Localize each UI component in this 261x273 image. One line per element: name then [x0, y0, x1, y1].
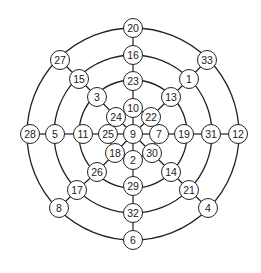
node-33: 33 [197, 50, 217, 70]
circular-graph-diagram: 2016231092293262851125719311227153243311… [0, 0, 261, 273]
node-23: 23 [123, 71, 143, 91]
node-14: 14 [161, 162, 181, 182]
node-13: 13 [161, 87, 181, 107]
node-25: 25 [98, 124, 118, 144]
node-20: 20 [123, 18, 143, 38]
node-5: 5 [45, 124, 65, 144]
node-8: 8 [49, 198, 69, 218]
node-26: 26 [87, 162, 107, 182]
node-22: 22 [141, 107, 161, 127]
node-15: 15 [69, 69, 89, 89]
node-11: 11 [73, 124, 93, 144]
node-32: 32 [123, 203, 143, 223]
node-3: 3 [87, 87, 107, 107]
node-31: 31 [201, 124, 221, 144]
node-4: 4 [198, 198, 218, 218]
node-24: 24 [106, 107, 126, 127]
node-16: 16 [123, 45, 143, 65]
node-28: 28 [20, 124, 40, 144]
node-27: 27 [50, 50, 70, 70]
node-17: 17 [67, 180, 87, 200]
node-12: 12 [228, 124, 248, 144]
node-7: 7 [149, 124, 169, 144]
node-21: 21 [179, 180, 199, 200]
node-29: 29 [123, 176, 143, 196]
node-1: 1 [179, 69, 199, 89]
node-2: 2 [123, 150, 143, 170]
node-19: 19 [174, 124, 194, 144]
node-30: 30 [142, 143, 162, 163]
node-9: 9 [123, 124, 143, 144]
node-6: 6 [123, 230, 143, 250]
node-18: 18 [105, 143, 125, 163]
node-10: 10 [123, 98, 143, 118]
